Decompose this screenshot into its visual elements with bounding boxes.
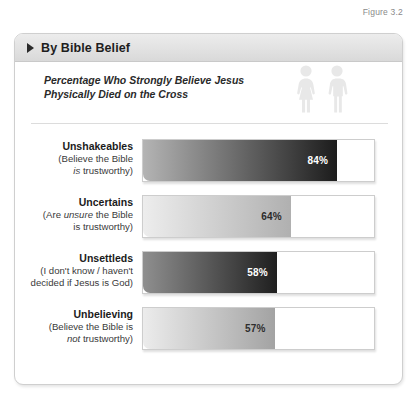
bar-row-subtitle-line-1: (Believe the Bible: [22, 153, 133, 165]
male-figure-icon: [324, 64, 350, 114]
bar-row-label: Uncertains(Are unsure the Bibleis trustw…: [22, 195, 142, 234]
bar-track: 57%: [142, 307, 375, 350]
bar-row-title: Unshakeables: [22, 140, 133, 153]
bar-row: Unshakeables(Believe the Bibleis trustwo…: [15, 139, 402, 195]
bar-fill: 57%: [143, 308, 275, 349]
bar-value-label: 58%: [247, 267, 277, 278]
card-header-title: By Bible Belief: [41, 41, 130, 55]
chart-subtitle: Percentage Who Strongly Believe Jesus Ph…: [44, 74, 264, 101]
bar-row-subtitle-line-1: (Believe the Bible is: [22, 321, 133, 333]
chart-card: By Bible Belief Percentage Who Strongly …: [14, 33, 403, 385]
female-figure-icon: [293, 64, 319, 114]
bar-row-title: Uncertains: [22, 196, 133, 209]
section-divider: [31, 123, 388, 124]
bar-track: 64%: [142, 195, 375, 238]
bar-fill: 84%: [143, 140, 337, 181]
bar-fill: 64%: [143, 196, 291, 237]
bar-track: 58%: [142, 251, 375, 294]
chart-subtitle-line-2: Physically Died on the Cross: [44, 88, 264, 102]
bar-row-title: Unsettleds: [22, 252, 133, 265]
figure-caption: Figure 3.2: [363, 7, 403, 17]
bar-row-subtitle-line-2: is trustworthy): [22, 221, 133, 233]
bar-row-subtitle-line-1: (I don't know / haven't: [22, 265, 133, 277]
card-header: By Bible Belief: [15, 34, 402, 62]
bar-row-title: Unbelieving: [22, 308, 133, 321]
chart-subtitle-line-1: Percentage Who Strongly Believe Jesus: [44, 74, 264, 88]
bar-row: Unbelieving(Believe the Bible isnot trus…: [15, 307, 402, 363]
bar-row-label: Unbelieving(Believe the Bible isnot trus…: [22, 307, 142, 346]
bar-row-subtitle-line-2: decided if Jesus is God): [22, 277, 133, 289]
bar-fill: 58%: [143, 252, 277, 293]
bar-row-subtitle-line-1: (Are unsure the Bible: [22, 209, 133, 221]
bar-value-label: 64%: [261, 211, 291, 222]
bar-value-label: 84%: [307, 155, 337, 166]
people-pictogram-group: [293, 64, 350, 114]
bar-row: Unsettleds(I don't know / haven'tdecided…: [15, 251, 402, 307]
bar-row-subtitle-line-2: is trustworthy): [22, 165, 133, 177]
bar-row-label: Unshakeables(Believe the Bibleis trustwo…: [22, 139, 142, 178]
triangle-right-icon: [27, 43, 34, 53]
bar-row-subtitle-line-2: not trustworthy): [22, 333, 133, 345]
bar-track: 84%: [142, 139, 375, 182]
bar-row: Uncertains(Are unsure the Bibleis trustw…: [15, 195, 402, 251]
bar-rows: Unshakeables(Believe the Bibleis trustwo…: [15, 139, 402, 363]
bar-row-label: Unsettleds(I don't know / haven'tdecided…: [22, 251, 142, 290]
bar-value-label: 57%: [245, 323, 275, 334]
